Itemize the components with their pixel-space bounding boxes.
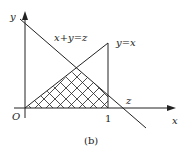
y-axis-arrow-icon bbox=[22, 11, 28, 20]
diagram-canvas: y x O 1 x+y=z y=x z (b) bbox=[0, 0, 185, 155]
x-axis-arrow-icon bbox=[167, 105, 176, 111]
y-axis-label: y bbox=[9, 11, 16, 22]
origin-label: O bbox=[12, 111, 20, 122]
figure-caption: (b) bbox=[84, 135, 98, 146]
identity-line-label: y=x bbox=[115, 37, 136, 48]
hatched-region bbox=[20, 60, 115, 110]
x-axis-label: x bbox=[172, 115, 178, 126]
y-axis bbox=[22, 11, 28, 118]
diagonal-line-label: x+y=z bbox=[54, 32, 88, 43]
x-tick-label-1: 1 bbox=[105, 113, 111, 124]
intercept-label: z bbox=[125, 95, 132, 106]
